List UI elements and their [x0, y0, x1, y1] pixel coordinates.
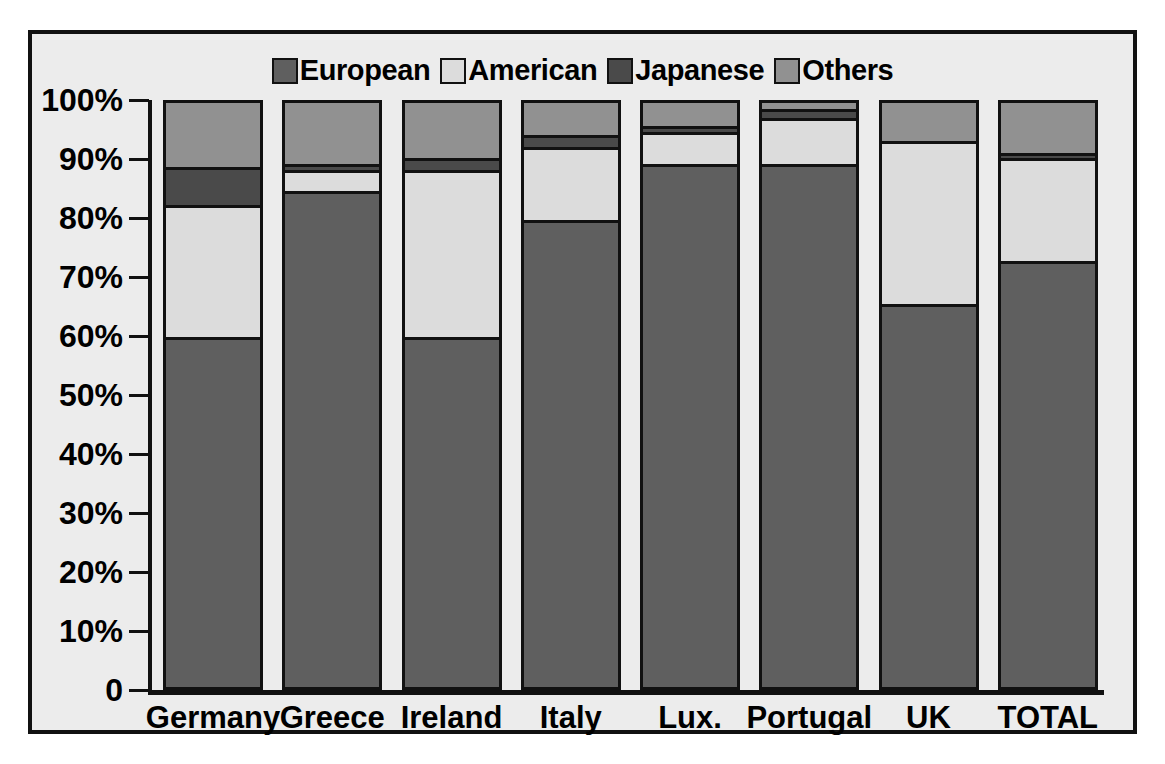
x-axis-tick-label: TOTAL: [998, 702, 1098, 733]
bar-group[interactable]: Italy: [521, 100, 621, 690]
bar-segment-others[interactable]: [643, 103, 737, 129]
y-axis-tick: [129, 689, 149, 692]
bar-segment-european[interactable]: [166, 340, 260, 687]
chart-legend: EuropeanAmericanJapaneseOthers: [32, 56, 1133, 85]
y-axis-tick-label: 0: [105, 674, 123, 706]
y-axis-tick-label: 70%: [59, 261, 123, 293]
bar-group[interactable]: Greece: [282, 100, 382, 690]
legend-swatch-icon: [440, 58, 466, 84]
x-axis-tick-label: Ireland: [401, 702, 503, 733]
x-axis-tick-label: Germany: [146, 702, 280, 733]
y-axis-tick: [129, 99, 149, 102]
stacked-bar[interactable]: [879, 100, 979, 690]
x-axis-line: [148, 690, 1104, 695]
stacked-bar[interactable]: [163, 100, 263, 690]
y-axis-tick-label: 90%: [59, 143, 123, 175]
legend-swatch-icon: [272, 58, 298, 84]
bar-segment-american[interactable]: [285, 173, 379, 193]
bar-segment-others[interactable]: [166, 103, 260, 170]
y-axis-tick: [129, 217, 149, 220]
y-axis-tick-label: 50%: [59, 379, 123, 411]
legend-item-label: Japanese: [635, 56, 764, 85]
stacked-bar[interactable]: [521, 100, 621, 690]
y-axis-tick-label: 40%: [59, 438, 123, 470]
legend-item-japanese[interactable]: Japanese: [607, 56, 764, 85]
legend-item-others[interactable]: Others: [774, 56, 893, 85]
bar-segment-american[interactable]: [166, 208, 260, 339]
bar-segment-others[interactable]: [285, 103, 379, 167]
legend-item-label: Others: [802, 56, 893, 85]
bar-segment-european[interactable]: [405, 340, 499, 687]
bar-segment-american[interactable]: [524, 150, 618, 223]
y-axis-tick-label: 80%: [59, 202, 123, 234]
bar-segment-european[interactable]: [882, 307, 976, 687]
y-axis-tick-label: 100%: [41, 84, 123, 116]
bar-segment-american[interactable]: [643, 135, 737, 167]
legend-item-european[interactable]: European: [272, 56, 431, 85]
bar-segment-others[interactable]: [524, 103, 618, 138]
legend-swatch-icon: [774, 58, 800, 84]
bar-segment-american[interactable]: [1001, 161, 1095, 263]
bar-segment-american[interactable]: [405, 173, 499, 339]
bar-segment-japanese[interactable]: [762, 112, 856, 121]
legend-item-label: American: [468, 56, 597, 85]
y-axis-tick: [129, 630, 149, 633]
legend-swatch-icon: [607, 58, 633, 84]
stacked-bar[interactable]: [759, 100, 859, 690]
x-axis-tick-label: Italy: [540, 702, 602, 733]
y-axis-tick-label: 30%: [59, 497, 123, 529]
bar-segment-japanese[interactable]: [405, 161, 499, 173]
stacked-bar[interactable]: [640, 100, 740, 690]
x-axis-tick-label: Greece: [280, 702, 385, 733]
y-axis-tick: [129, 276, 149, 279]
y-axis-tick-label: 60%: [59, 320, 123, 352]
y-axis-tick: [129, 512, 149, 515]
y-axis-tick: [129, 453, 149, 456]
y-axis-tick-label: 10%: [59, 615, 123, 647]
bar-segment-european[interactable]: [285, 194, 379, 687]
legend-item-american[interactable]: American: [440, 56, 597, 85]
stacked-bar[interactable]: [998, 100, 1098, 690]
bar-group[interactable]: Germany: [163, 100, 263, 690]
x-axis-tick-label: Portugal: [746, 702, 872, 733]
bar-series-container: GermanyGreeceIrelandItalyLux.PortugalUKT…: [149, 100, 1103, 690]
bar-segment-japanese[interactable]: [166, 170, 260, 208]
stacked-bar[interactable]: [282, 100, 382, 690]
bar-group[interactable]: TOTAL: [998, 100, 1098, 690]
x-axis-tick-label: Lux.: [658, 702, 722, 733]
bar-segment-others[interactable]: [1001, 103, 1095, 156]
bar-segment-american[interactable]: [762, 121, 856, 168]
y-axis-tick: [129, 571, 149, 574]
y-axis-tick: [129, 394, 149, 397]
legend-item-label: European: [300, 56, 431, 85]
y-axis-tick: [129, 158, 149, 161]
stacked-bar[interactable]: [402, 100, 502, 690]
bar-segment-american[interactable]: [882, 144, 976, 308]
bar-group[interactable]: Ireland: [402, 100, 502, 690]
bar-segment-others[interactable]: [882, 103, 976, 144]
bar-segment-european[interactable]: [1001, 264, 1095, 687]
bar-segment-others[interactable]: [405, 103, 499, 161]
bar-group[interactable]: Lux.: [640, 100, 740, 690]
bar-segment-european[interactable]: [643, 167, 737, 687]
chart-figure: EuropeanAmericanJapaneseOthers 010%20%30…: [28, 30, 1137, 734]
bar-segment-european[interactable]: [524, 223, 618, 687]
bar-group[interactable]: UK: [879, 100, 979, 690]
y-axis-tick: [129, 335, 149, 338]
y-axis-tick-label: 20%: [59, 556, 123, 588]
bar-segment-japanese[interactable]: [524, 138, 618, 150]
x-axis-tick-label: UK: [906, 702, 951, 733]
bar-segment-others[interactable]: [762, 103, 856, 112]
bar-segment-european[interactable]: [762, 167, 856, 687]
bar-group[interactable]: Portugal: [759, 100, 859, 690]
plot-area: 010%20%30%40%50%60%70%80%90%100% Germany…: [149, 100, 1103, 690]
